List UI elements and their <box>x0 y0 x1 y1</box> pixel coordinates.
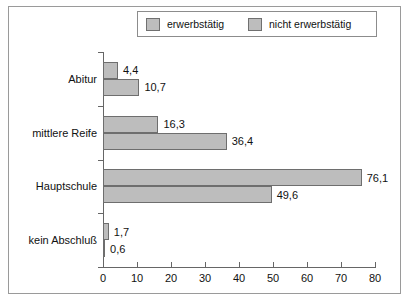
bar-value-label: 10,7 <box>144 81 165 93</box>
x-axis-tick <box>137 262 138 268</box>
bar-value-label: 1,7 <box>114 226 129 238</box>
bar-nicht-erwerbstaetig <box>103 133 227 150</box>
bar-nicht-erwerbstaetig <box>103 186 272 203</box>
x-axis-tick-label: 10 <box>131 272 143 284</box>
x-axis-tick-label: 70 <box>335 272 347 284</box>
bar-erwerbstaetig <box>103 116 158 133</box>
x-axis-tick <box>375 262 376 268</box>
x-axis-tick-label: 30 <box>199 272 211 284</box>
x-axis-tick-label: 60 <box>301 272 313 284</box>
bar-erwerbstaetig <box>103 169 362 186</box>
bar-nicht-erwerbstaetig <box>103 79 139 96</box>
y-axis-tick <box>98 213 104 214</box>
x-axis-tick-label: 20 <box>165 272 177 284</box>
bar-erwerbstaetig <box>103 223 109 240</box>
x-axis-tick <box>307 262 308 268</box>
chart-container: erwerbstätig nicht erwerbstätig 01020304… <box>0 0 410 302</box>
plot-area: 01020304050607080 Abiturmittlere ReifeHa… <box>0 0 410 302</box>
bar-value-label: 16,3 <box>163 118 184 130</box>
y-axis-category-label: Abitur <box>68 73 97 85</box>
bar-value-label: 76,1 <box>367 172 388 184</box>
y-axis-category-label: mittlere Reife <box>32 127 97 139</box>
y-axis-category-label: kein Abschluß <box>29 234 97 246</box>
y-axis-tick <box>98 267 104 268</box>
x-axis-tick-label: 40 <box>233 272 245 284</box>
x-axis-tick <box>205 262 206 268</box>
bar-value-label: 49,6 <box>277 189 298 201</box>
x-axis-tick <box>273 262 274 268</box>
bar-value-label: 4,4 <box>123 64 138 76</box>
y-axis-category-label: Hauptschule <box>36 180 97 192</box>
y-axis-tick <box>98 160 104 161</box>
bar-value-label: 0,6 <box>110 243 125 255</box>
x-axis-tick-label: 80 <box>369 272 381 284</box>
x-axis-tick <box>239 262 240 268</box>
bar-value-label: 36,4 <box>232 135 253 147</box>
x-axis-tick-label: 0 <box>100 272 106 284</box>
x-axis-tick-label: 50 <box>267 272 279 284</box>
y-axis-tick <box>98 106 104 107</box>
bar-nicht-erwerbstaetig <box>103 240 105 257</box>
x-axis-tick <box>171 262 172 268</box>
bar-erwerbstaetig <box>103 62 118 79</box>
x-axis-tick <box>341 262 342 268</box>
y-axis-tick <box>98 52 104 53</box>
